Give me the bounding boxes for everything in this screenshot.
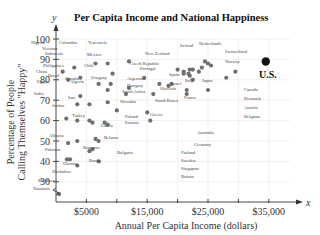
x-axis-arrow-icon [296, 200, 303, 205]
data-point [185, 88, 189, 92]
data-point [106, 61, 110, 65]
country-label: Portugal [140, 66, 156, 71]
country-label: Hungary [127, 83, 144, 88]
country-label: Britain [181, 174, 194, 179]
y-axis-title: Percentage of People Calling Themselves … [5, 64, 27, 181]
country-label: South Africa [122, 89, 145, 94]
country-label: Chile [84, 63, 94, 68]
country-label: Algeria [70, 79, 84, 84]
data-point [186, 72, 190, 76]
data-point [262, 57, 270, 65]
data-point [72, 65, 76, 69]
country-label: Venezuela [88, 40, 107, 45]
y-tick-label: 50 [40, 136, 50, 147]
data-point [151, 92, 155, 96]
y-axis-variable: y [51, 12, 57, 23]
country-label: Italy [185, 78, 194, 83]
y-tick-label: 40 [40, 156, 50, 167]
x-axis-variable: x [305, 197, 311, 208]
country-label: Japan [202, 78, 213, 83]
country-label: Slovakia [120, 99, 136, 104]
data-point [145, 110, 149, 114]
country-label: Mexico [87, 52, 102, 57]
scatter-chart: NigeriaColombiaVenezuelaVietnamIndonesia… [0, 0, 320, 235]
data-point [206, 88, 210, 92]
country-label: Norway [225, 59, 241, 64]
data-point [75, 119, 79, 123]
data-point [110, 72, 114, 76]
y-tick-label: 100 [35, 34, 50, 45]
data-point [96, 82, 100, 86]
country-label: Iran [68, 95, 76, 100]
data-point [75, 102, 79, 106]
country-label: Latvia [101, 123, 113, 128]
country-label: Austria [244, 105, 258, 110]
country-label: Greece [150, 112, 163, 117]
y-tick-label: 90 [40, 54, 50, 65]
country-label: France [184, 95, 197, 100]
country-label: Slovenia [160, 86, 176, 91]
country-label: Belgium [244, 114, 260, 119]
country-label: Estonia [125, 120, 139, 125]
country-label: Turkey [72, 113, 86, 118]
x-tick-label: $5000 [74, 206, 99, 217]
country-label: Belarus [104, 135, 118, 140]
country-label: Bulgaria [117, 150, 133, 155]
data-point [115, 108, 119, 112]
country-label: China [36, 69, 47, 74]
data-point [96, 139, 100, 143]
country-label: Germany [194, 142, 212, 147]
data-point [93, 61, 97, 65]
data-point [90, 121, 94, 125]
data-point [64, 116, 68, 120]
country-label: Canada [244, 87, 258, 92]
x-axis-title: Annual Per Capita Income (dollars) [115, 220, 258, 232]
country-label: Sweden [181, 158, 196, 163]
country-label: Poland [125, 114, 138, 119]
data-point [106, 88, 110, 92]
country-label: Jordan [52, 103, 65, 108]
chart-title: Per Capita Income and National Happiness [74, 12, 268, 23]
country-label: Zimbabwe [52, 169, 72, 174]
y-tick-label: 30 [40, 176, 50, 187]
country-label: Ireland [180, 43, 194, 48]
country-label: New Zealand [145, 51, 170, 56]
country-label: Finland [181, 150, 196, 155]
country-label: Netherlands [199, 41, 221, 46]
data-point [206, 61, 210, 65]
country-label: Singapore [181, 166, 200, 171]
y-axis-title-line-1: Percentage of People [5, 79, 16, 164]
data-point [109, 82, 113, 86]
data-point [224, 76, 228, 80]
country-label: Switzerland [225, 49, 248, 54]
x-tick-label: $25,000 [192, 206, 225, 217]
country-label: Romania [83, 145, 100, 150]
y-tick-label: 80 [40, 74, 50, 85]
data-points [57, 57, 270, 196]
x-tick-label: $35,000 [253, 206, 286, 217]
data-point [182, 72, 186, 76]
data-point [66, 141, 70, 145]
y-tick-label: 60 [40, 115, 50, 126]
y-axis-arrow-icon [54, 24, 59, 31]
data-point [148, 119, 152, 123]
data-point [191, 68, 195, 72]
data-point [78, 94, 82, 98]
y-axis-title-line-2: Calling Themselves "Happy" [16, 64, 27, 181]
country-label: South Korea [155, 98, 178, 103]
country-label: Colombia [59, 40, 77, 45]
data-point [61, 70, 65, 74]
country-label: Ukraine [63, 161, 78, 166]
country-label: Argentina [127, 76, 145, 81]
country-label: Denmark [244, 96, 262, 101]
data-point [233, 70, 237, 74]
data-point [87, 102, 91, 106]
country-label: Pakistan [45, 147, 61, 152]
y-axis-ticks: 30405060708090100 [35, 34, 59, 188]
point-labels: NigeriaColombiaVenezuelaVietnamIndonesia… [31, 40, 277, 191]
country-label: Australia [197, 130, 214, 135]
country-label: Russia [89, 158, 101, 163]
data-point [197, 70, 201, 74]
country-label: Spain [169, 72, 180, 77]
x-tick-label: $15,000 [131, 206, 164, 217]
